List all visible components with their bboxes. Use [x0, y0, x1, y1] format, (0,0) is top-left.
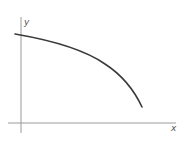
- y-axis-label: y: [23, 17, 30, 27]
- function-plot: y x: [0, 0, 184, 146]
- curve: [15, 34, 142, 107]
- x-axis-label: x: [170, 123, 177, 133]
